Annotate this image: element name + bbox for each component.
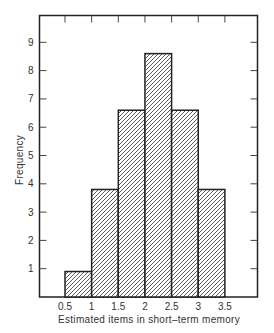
histogram-bar [172, 110, 199, 297]
histogram-bar [198, 189, 225, 297]
y-tick-label: 5 [28, 150, 34, 161]
x-tick-label: 1 [89, 301, 95, 312]
histogram-bar [92, 189, 119, 297]
y-tick-label: 3 [28, 207, 34, 218]
y-tick-label: 4 [28, 178, 34, 189]
x-tick-label: 2 [142, 301, 148, 312]
y-tick-label: 1 [28, 263, 34, 274]
y-tick-label: 2 [28, 235, 34, 246]
x-tick-label: 3.5 [218, 301, 232, 312]
histogram-bars [65, 54, 225, 297]
x-tick-label: 1.5 [111, 301, 125, 312]
y-axis-label: Frequency [14, 135, 25, 185]
histogram-chart: 123456789 0.511.522.533.5 Estimated item… [0, 0, 274, 333]
y-tick-label: 6 [28, 122, 34, 133]
histogram-bar [118, 110, 145, 297]
x-tick-label: 3 [195, 301, 201, 312]
x-tick-label: 2.5 [165, 301, 179, 312]
y-tick-label: 8 [28, 65, 34, 76]
x-axis-label: Estimated items in short–term memory [58, 314, 240, 325]
x-tick-label: 0.5 [58, 301, 72, 312]
y-tick-label: 9 [28, 37, 34, 48]
histogram-bar [145, 54, 172, 297]
histogram-bar [65, 272, 92, 297]
y-tick-label: 7 [28, 93, 34, 104]
